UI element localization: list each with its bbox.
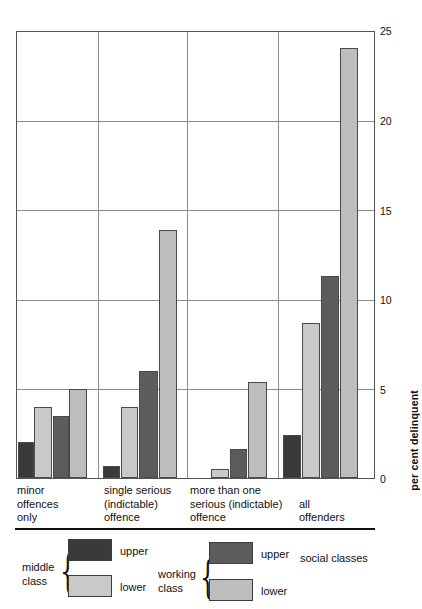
bar-all-middle-upper (283, 435, 301, 478)
legend-swatch-working-lower (209, 579, 253, 601)
legend-group-middle-line2: class (22, 574, 47, 588)
gridline-15 (17, 210, 374, 211)
category-label-minor-line2: offences (17, 498, 58, 512)
ytick-0: 0 (380, 474, 386, 484)
legend-group-working-line2: class (158, 581, 183, 595)
legend-group-working-line1: working (158, 567, 196, 581)
ytick-5: 5 (380, 385, 386, 395)
plot-area (16, 31, 375, 479)
legend: middle class { upper lower working class… (0, 534, 422, 606)
group-separator-3 (278, 32, 279, 478)
legend-caption: social classes (300, 552, 368, 564)
bar-all-working-upper (321, 276, 339, 478)
category-label-multiple-line2: serious (indictable) (190, 498, 282, 512)
bar-all-working-lower (340, 48, 358, 478)
category-label-multiple-line3: offence (190, 511, 226, 525)
bar-all-middle-lower (302, 323, 320, 478)
bar-multiple-working-upper (230, 449, 247, 478)
category-label-all-line1: all (299, 498, 310, 512)
legend-label-middle-upper: upper (120, 544, 148, 558)
bar-single-working-upper (139, 371, 158, 478)
ytick-20: 20 (380, 116, 392, 126)
category-label-multiple-line1: more than one (190, 484, 261, 498)
bar-multiple-working-lower (248, 382, 267, 478)
category-label-minor-line3: only (17, 511, 37, 525)
ytick-10: 10 (380, 295, 392, 305)
bar-minor-working-upper (53, 416, 69, 478)
category-label-single-line1: single serious (104, 484, 171, 498)
category-label-minor-line1: minor (17, 484, 45, 498)
gridline-20 (17, 121, 374, 122)
bar-minor-middle-upper (18, 442, 34, 478)
category-label-all-line2: offenders (299, 511, 345, 525)
legend-label-middle-lower: lower (120, 580, 146, 594)
bar-single-working-lower (159, 230, 177, 478)
bar-multiple-middle-lower (211, 469, 229, 478)
legend-swatch-middle-upper (68, 539, 112, 561)
category-labels: minor offences only single serious (indi… (0, 484, 422, 524)
group-separator-1 (98, 32, 99, 478)
legend-swatch-working-upper (209, 542, 253, 564)
legend-group-middle-line1: middle (22, 560, 54, 574)
ytick-25: 25 (380, 26, 392, 36)
bar-minor-working-lower (69, 389, 87, 478)
legend-label-working-lower: lower (261, 584, 287, 598)
bar-minor-middle-lower (34, 407, 52, 478)
legend-swatch-middle-lower (68, 575, 112, 597)
group-separator-2 (187, 32, 188, 478)
legend-divider (15, 528, 375, 530)
y-axis-title: per cent delinquent (408, 390, 420, 491)
legend-label-working-upper: upper (261, 547, 289, 561)
bar-single-middle-upper (103, 466, 120, 478)
bar-single-middle-lower (121, 407, 138, 478)
chart-figure: 25 20 15 10 5 0 per cent delinquent mino… (0, 0, 422, 609)
category-label-single-line3: offence (104, 511, 140, 525)
ytick-15: 15 (380, 206, 392, 216)
category-label-single-line2: (indictable) (104, 498, 158, 512)
